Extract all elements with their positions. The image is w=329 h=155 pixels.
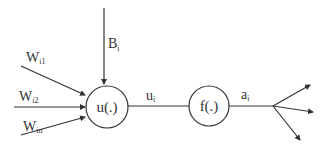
bias-label: Bi — [108, 36, 120, 53]
net-input-label: ui — [146, 88, 156, 104]
input-label-2: Wi2 — [19, 89, 38, 105]
summation-node-label: u(.) — [96, 99, 117, 116]
output-branch-1 — [273, 85, 310, 106]
output-branch-3 — [273, 106, 300, 140]
input-label-n: Win — [23, 119, 42, 135]
neuron-diagram: Bi Wi1 Wi2 Win u(.) ui f(.) ai — [0, 0, 329, 155]
output-branches — [273, 85, 313, 140]
output-branch-2 — [273, 106, 313, 112]
input-label-1: Wi1 — [26, 50, 45, 66]
activation-node-label: f(.) — [200, 98, 219, 115]
output-label: ai — [241, 87, 250, 103]
